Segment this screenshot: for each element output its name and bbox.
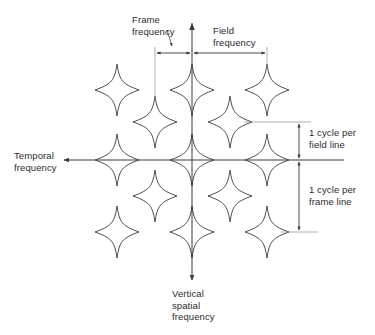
- star-marker: [133, 170, 177, 222]
- label-one-cycle-per-frame-line: 1 cycle per frame line: [309, 184, 356, 207]
- star-marker: [95, 64, 139, 116]
- label-frame-frequency: Frame frequency: [132, 14, 175, 37]
- star-marker: [208, 170, 252, 222]
- vertical-axis-top-arrowhead: [189, 23, 195, 30]
- label-vertical-spatial-frequency: Vertical spatial frequency: [172, 288, 215, 323]
- spatiotemporal-spectrum-figure: Frame frequency Field frequency Temporal…: [0, 0, 375, 335]
- label-one-cycle-per-field-line: 1 cycle per field line: [309, 127, 356, 150]
- axes: [64, 23, 344, 280]
- label-temporal-frequency: Temporal frequency: [14, 150, 57, 173]
- right-dimension-group: [244, 122, 318, 232]
- label-field-frequency: Field frequency: [213, 25, 256, 48]
- star-marker: [245, 64, 289, 116]
- star-marker: [133, 96, 177, 148]
- star-marker: [95, 206, 139, 258]
